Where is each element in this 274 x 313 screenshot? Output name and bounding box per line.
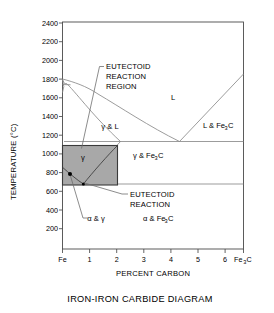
leader-line-eutectoid-region <box>82 67 105 149</box>
x-axis-title: PERCENT CARBON <box>116 269 190 278</box>
y-tick-label: 1000 <box>42 149 58 158</box>
y-axis-tick-labels: 2400 2200 2000 1800 1600 1400 1200 1000 … <box>42 19 58 234</box>
region-label-alpha-fe3c: α & Fe 3 C <box>143 214 174 224</box>
callout-text-line1: EUTECTOID <box>130 190 175 199</box>
callout-text-line3: REGION <box>106 82 137 91</box>
y-axis-ticks <box>59 23 63 229</box>
y-tick-label: 600 <box>46 187 58 196</box>
eutectoid-region-highlight-box <box>63 146 118 186</box>
region-label-gamma-fe3c: γ & Fe 3 C <box>133 151 164 161</box>
liquidus-fe3c-rich <box>180 74 244 142</box>
callout-eutectoid-reaction: EUTECTOID REACTION <box>85 183 176 209</box>
svg-text:α & Fe: α & Fe <box>143 214 166 223</box>
x-tick-label: 4 <box>169 255 173 264</box>
region-label-liquid: L <box>171 93 175 102</box>
x-tick-label: 5 <box>196 255 200 264</box>
diagram-canvas: TEMPERATURE (°C) 2400 2200 2000 1800 160… <box>0 0 274 313</box>
svg-text:Fe: Fe <box>234 255 242 264</box>
x-tick-label: 2 <box>115 255 119 264</box>
y-axis-title: TEMPERATURE (°C) <box>9 123 18 200</box>
region-label-gamma-liquid: γ & L <box>101 122 118 131</box>
y-tick-label: 1400 <box>42 112 58 121</box>
y-tick-label: 1600 <box>42 93 58 102</box>
y-tick-label: 200 <box>46 224 58 233</box>
svg-text:C: C <box>158 151 164 160</box>
y-tick-label: 2400 <box>42 19 58 28</box>
svg-text:C: C <box>168 214 174 223</box>
svg-text:C: C <box>228 121 234 130</box>
figure-title: IRON-IRON CARBIDE DIAGRAM <box>67 294 212 304</box>
callout-text-line2: REACTION <box>130 200 170 209</box>
region-label-gamma: γ <box>81 153 85 162</box>
eutectoid-point-marker <box>82 183 85 186</box>
x-tick-label-fe3c: Fe 3 C <box>234 255 252 265</box>
x-axis-tick-labels: Fe 1 2 3 4 5 6 Fe 3 C <box>58 255 251 265</box>
x-tick-label: 1 <box>88 255 92 264</box>
y-tick-label: 1200 <box>42 131 58 140</box>
x-tick-label: Fe <box>58 255 66 264</box>
y-tick-label: 2200 <box>42 37 58 46</box>
callout-text-line1: EUTECTOID <box>106 62 151 71</box>
x-tick-label: 3 <box>142 255 146 264</box>
x-tick-label: 6 <box>223 255 227 264</box>
callout-text-line2: REACTION <box>106 72 146 81</box>
x-axis-ticks <box>63 249 244 253</box>
svg-text:γ & Fe: γ & Fe <box>133 151 155 160</box>
y-tick-label: 400 <box>46 206 58 215</box>
svg-text:L & Fe: L & Fe <box>203 121 225 130</box>
y-tick-label: 1800 <box>42 75 58 84</box>
y-tick-label: 2000 <box>42 56 58 65</box>
region-label-alpha-gamma: α & γ <box>87 214 105 223</box>
iron-carbon-phase-diagram-figure: TEMPERATURE (°C) 2400 2200 2000 1800 160… <box>0 0 274 313</box>
svg-text:C: C <box>247 255 252 264</box>
region-label-liquid-fe3c: L & Fe 3 C <box>203 121 234 131</box>
alpha-phase-point-marker <box>68 172 72 176</box>
y-tick-label: 800 <box>46 168 58 177</box>
